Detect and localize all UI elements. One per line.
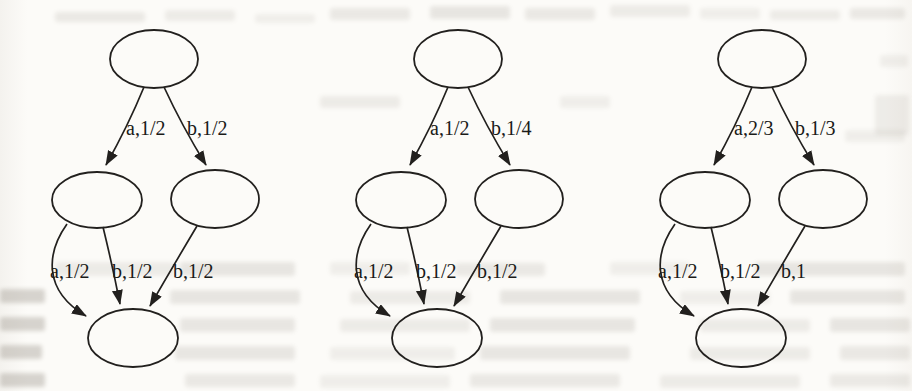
state-node-mid-right <box>171 170 259 228</box>
state-node-top <box>414 30 502 88</box>
automata-row: a,1/2b,1/2a,1/2b,1/2b,1/2 a,1/2b,1/4a,1/… <box>0 0 912 391</box>
transition-label: b,1/2 <box>416 260 457 282</box>
automaton-3: a,2/3b,1/3a,1/2b,1/2b,1 <box>608 0 912 391</box>
state-node-bottom <box>696 309 786 367</box>
automaton-svg: a,2/3b,1/3a,1/2b,1/2b,1 <box>608 0 912 391</box>
transition-label: b,1/3 <box>795 117 836 139</box>
transition-label: a,1/2 <box>354 260 393 282</box>
automaton-svg: a,1/2b,1/4a,1/2b,1/2b,1/2 <box>304 0 608 391</box>
state-node-mid-right <box>475 170 563 228</box>
transition-label: a,1/2 <box>126 117 165 139</box>
automaton-1: a,1/2b,1/2a,1/2b,1/2b,1/2 <box>0 0 304 391</box>
state-node-mid-right <box>779 170 867 228</box>
state-node-bottom <box>392 309 482 367</box>
state-node-mid-left <box>660 172 750 228</box>
transition-label: a,1/2 <box>430 117 469 139</box>
state-node-top <box>110 30 198 88</box>
scanned-page: a,1/2b,1/2a,1/2b,1/2b,1/2 a,1/2b,1/4a,1/… <box>0 0 912 391</box>
transition-label: a,1/2 <box>50 260 89 282</box>
transition-label: b,1/2 <box>187 117 228 139</box>
transition-label: b,1 <box>781 260 806 282</box>
transition-label: b,1/2 <box>173 260 214 282</box>
transition-label: b,1/2 <box>477 260 518 282</box>
transition-label: a,1/2 <box>658 260 697 282</box>
transition-label: b,1/2 <box>112 260 153 282</box>
automaton-2: a,1/2b,1/4a,1/2b,1/2b,1/2 <box>304 0 608 391</box>
transition-label: a,2/3 <box>734 117 773 139</box>
state-node-mid-left <box>356 172 446 228</box>
transition-label: b,1/4 <box>491 117 532 139</box>
state-node-top <box>718 30 806 88</box>
state-node-bottom <box>88 309 178 367</box>
automaton-svg: a,1/2b,1/2a,1/2b,1/2b,1/2 <box>0 0 304 391</box>
transition-label: b,1/2 <box>720 260 761 282</box>
state-node-mid-left <box>52 172 142 228</box>
